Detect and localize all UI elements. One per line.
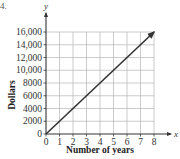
problem-number: 4. — [0, 1, 7, 11]
x-tick-label: 8 — [152, 137, 157, 147]
y-tick-label: 10,000 — [16, 65, 42, 75]
x-tick-label: 7 — [138, 137, 143, 147]
y-tick-label: 0 — [37, 129, 42, 139]
x-axis-title: Number of years — [66, 145, 134, 155]
line-chart: 4. 0200040006000800010,00012,00014,00016… — [0, 0, 180, 159]
y-tick-label: 14,000 — [16, 40, 42, 50]
x-axis-variable: x — [173, 129, 178, 139]
x-tick-label: 1 — [57, 137, 62, 147]
y-tick-label: 8000 — [23, 78, 42, 88]
y-axis-variable: y — [43, 1, 48, 11]
y-tick-label: 4000 — [23, 104, 42, 114]
y-tick-label: 12,000 — [16, 53, 42, 63]
y-tick-label: 6000 — [23, 91, 42, 101]
y-tick-labels: 0200040006000800010,00012,00014,00016,00… — [16, 27, 42, 139]
y-axis-title: Dollars — [7, 80, 17, 110]
x-tick-label: 0 — [44, 137, 49, 147]
y-tick-label: 16,000 — [16, 27, 42, 37]
y-tick-label: 2000 — [23, 116, 42, 126]
